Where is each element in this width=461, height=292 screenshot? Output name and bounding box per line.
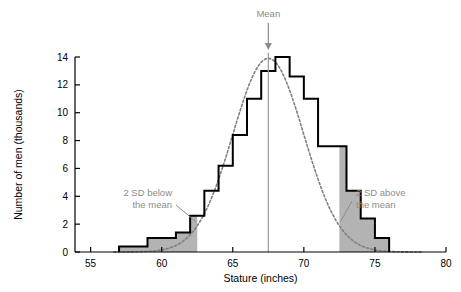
y-tick-label: 2 bbox=[62, 219, 68, 230]
y-tick-label: 10 bbox=[57, 107, 69, 118]
x-tick-label: 60 bbox=[156, 258, 168, 269]
x-tick-label: 75 bbox=[369, 258, 381, 269]
right-tail-annotation-line1: 2 SD above bbox=[356, 187, 406, 198]
x-tick-label: 55 bbox=[85, 258, 97, 269]
mean-annotation-label: Mean bbox=[256, 8, 280, 19]
y-tick-label: 6 bbox=[62, 163, 68, 174]
chart-figure: 02468101214556065707580Stature (inches)N… bbox=[0, 0, 461, 292]
y-tick-label: 0 bbox=[62, 247, 68, 258]
left-tail-leader-line bbox=[176, 205, 196, 222]
y-tick-label: 8 bbox=[62, 135, 68, 146]
right-tail-annotation-line2: the mean bbox=[356, 199, 396, 210]
left-tail-annotation-line1: 2 SD below bbox=[123, 187, 172, 198]
x-tick-label: 65 bbox=[227, 258, 239, 269]
y-tick-label: 4 bbox=[62, 191, 68, 202]
histogram-chart: 02468101214556065707580Stature (inches)N… bbox=[0, 0, 461, 292]
y-tick-label: 14 bbox=[57, 52, 69, 63]
x-tick-label: 80 bbox=[440, 258, 452, 269]
mean-arrow-head bbox=[265, 43, 272, 50]
x-tick-label: 70 bbox=[298, 258, 310, 269]
y-tick-label: 12 bbox=[57, 79, 69, 90]
y-axis-title: Number of men (thousands) bbox=[12, 89, 24, 220]
left-tail-annotation-line2: the mean bbox=[132, 199, 172, 210]
x-axis-title: Stature (inches) bbox=[223, 272, 297, 284]
